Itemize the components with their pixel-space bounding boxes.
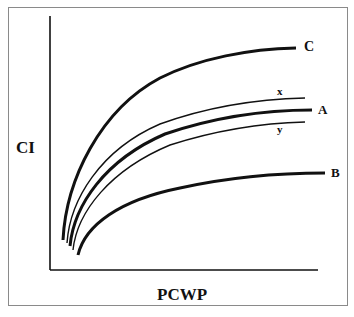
curve-a [70,110,312,246]
x-axis-label: PCWP [157,285,207,305]
label-x: x [277,85,283,97]
label-c: C [304,39,314,55]
plot-area [0,0,354,317]
y-axis-label: CI [16,138,35,158]
curve-b [78,173,325,255]
curve-c [63,48,296,240]
label-a: A [318,102,327,118]
label-b: B [331,165,340,181]
label-y: y [277,123,283,135]
